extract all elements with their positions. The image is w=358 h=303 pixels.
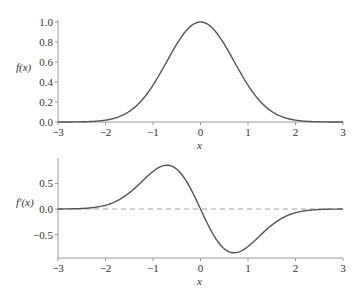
x-axis-label: x xyxy=(196,139,202,151)
x-tick-label: −1 xyxy=(147,126,159,138)
x-tick-label: 2 xyxy=(293,262,299,274)
x-tick-label: −2 xyxy=(100,262,112,274)
y-tick-label: 0.2 xyxy=(39,96,53,108)
y-tick-label: −0.5 xyxy=(33,229,53,241)
y-tick-label: 0.0 xyxy=(39,203,53,215)
x-tick-label: 3 xyxy=(340,126,346,138)
x-tick-label: −2 xyxy=(100,126,112,138)
y-tick-label: 0.8 xyxy=(39,36,53,48)
y-tick-label: 0.5 xyxy=(39,177,53,189)
x-tick-label: 2 xyxy=(293,126,299,138)
x-tick-label: 1 xyxy=(245,126,251,138)
y-tick-label: 0.4 xyxy=(39,76,53,88)
data-curve xyxy=(58,165,343,253)
y-axis-label: f'(x) xyxy=(16,196,34,209)
x-tick-label: −1 xyxy=(147,262,159,274)
chart-figure: 0.00.20.40.60.81.0−3−2−10123xf(x) −0.50.… xyxy=(0,0,358,303)
x-axis-label: x xyxy=(196,275,202,287)
x-tick-label: −3 xyxy=(52,126,64,138)
y-tick-label: 0.6 xyxy=(39,56,53,68)
x-tick-label: −3 xyxy=(52,262,64,274)
bottom-plot: −0.50.00.5−3−2−10123xf'(x) xyxy=(16,158,346,287)
x-tick-label: 3 xyxy=(340,262,346,274)
x-tick-label: 0 xyxy=(198,126,204,138)
x-tick-label: 0 xyxy=(198,262,204,274)
data-curve xyxy=(58,22,343,122)
x-tick-label: 1 xyxy=(245,262,251,274)
y-tick-label: 1.0 xyxy=(39,16,53,28)
y-axis-label: f(x) xyxy=(16,61,32,74)
top-plot: 0.00.20.40.60.81.0−3−2−10123xf(x) xyxy=(16,16,346,151)
